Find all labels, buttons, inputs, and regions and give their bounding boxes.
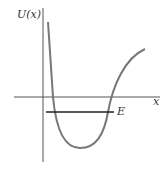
y-axis-label: U(x) bbox=[17, 8, 41, 21]
x-axis-label: x bbox=[153, 95, 159, 108]
diagram-canvas bbox=[0, 0, 168, 171]
potential-energy-diagram: U(x) x E bbox=[0, 0, 168, 171]
energy-label: E bbox=[117, 105, 125, 118]
potential-curve bbox=[48, 22, 145, 148]
